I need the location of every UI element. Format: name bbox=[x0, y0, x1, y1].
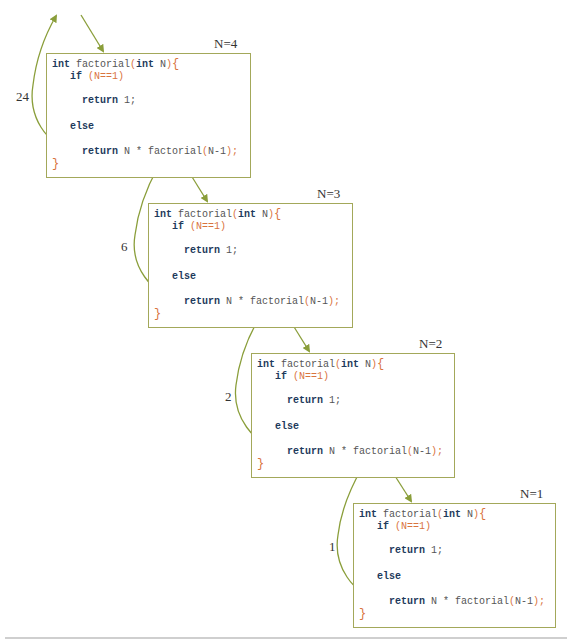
return-base: 1; bbox=[118, 95, 136, 106]
return-value-n4: 24 bbox=[16, 89, 29, 105]
param: N bbox=[359, 359, 371, 370]
return-value-n2: 2 bbox=[225, 389, 232, 405]
paren: ) bbox=[425, 521, 431, 532]
call-arg: N-1 bbox=[208, 146, 226, 157]
call-arg: N-1 bbox=[515, 596, 533, 607]
function-name: factorial bbox=[275, 359, 335, 370]
recursive-expr: N * factorial bbox=[323, 446, 407, 457]
recursive-expr: N * factorial bbox=[118, 146, 202, 157]
keyword: return bbox=[82, 146, 118, 157]
keyword: int bbox=[341, 359, 359, 370]
brace: { bbox=[274, 207, 281, 221]
paren: ) bbox=[323, 371, 329, 382]
code-block: int factorial(int N){ if (N==1) return 1… bbox=[149, 204, 173, 292]
return-base: 1; bbox=[220, 245, 238, 256]
bottom-divider bbox=[5, 637, 567, 639]
keyword: if bbox=[275, 371, 287, 382]
call-arg: N-1 bbox=[413, 446, 431, 457]
return-base: 1; bbox=[323, 395, 341, 406]
call-arg: N-1 bbox=[310, 296, 328, 307]
frame-label-n1: N=1 bbox=[520, 486, 543, 502]
paren: ) bbox=[220, 221, 226, 232]
keyword: return bbox=[184, 245, 220, 256]
function-name: factorial bbox=[70, 59, 130, 70]
keyword: return bbox=[389, 545, 425, 556]
brace: } bbox=[359, 607, 366, 621]
return-base: 1; bbox=[425, 545, 443, 556]
brace: { bbox=[377, 357, 384, 371]
frame-label-n4: N=4 bbox=[214, 36, 237, 52]
keyword: else bbox=[377, 571, 401, 582]
paren: ( bbox=[184, 221, 196, 232]
brace: { bbox=[479, 507, 486, 521]
return-value-n1: 1 bbox=[329, 539, 336, 555]
semicolon: ; bbox=[437, 446, 443, 457]
keyword: int bbox=[154, 209, 172, 220]
call-arrow-n4 bbox=[81, 15, 103, 51]
paren: ( bbox=[82, 71, 94, 82]
call-frame-n4: int factorial(int N){ if (N==1) return 1… bbox=[46, 53, 251, 178]
semicolon: ; bbox=[334, 296, 340, 307]
condition: N==1 bbox=[196, 221, 220, 232]
function-name: factorial bbox=[377, 509, 437, 520]
keyword: else bbox=[70, 121, 94, 132]
keyword: else bbox=[275, 421, 299, 432]
frame-label-n3: N=3 bbox=[317, 186, 340, 202]
brace: } bbox=[257, 457, 264, 471]
brace: } bbox=[154, 307, 161, 321]
brace: } bbox=[52, 157, 59, 171]
keyword: return bbox=[287, 395, 323, 406]
call-frame-n3: int factorial(int N){ if (N==1) return 1… bbox=[148, 203, 353, 328]
call-frame-n1: int factorial(int N){ if (N==1) return 1… bbox=[353, 503, 556, 628]
param: N bbox=[154, 59, 166, 70]
recursive-expr: N * factorial bbox=[425, 596, 509, 607]
keyword: return bbox=[287, 446, 323, 457]
return-value-n3: 6 bbox=[121, 239, 128, 255]
code-block: int factorial(int N){ if (N==1) return 1… bbox=[252, 354, 276, 442]
keyword: return bbox=[184, 296, 220, 307]
paren: ( bbox=[287, 371, 299, 382]
keyword: int bbox=[257, 359, 275, 370]
condition: N==1 bbox=[94, 71, 118, 82]
keyword: if bbox=[377, 521, 389, 532]
condition: N==1 bbox=[299, 371, 323, 382]
keyword: if bbox=[172, 221, 184, 232]
keyword: int bbox=[443, 509, 461, 520]
paren: ( bbox=[389, 521, 401, 532]
keyword: int bbox=[238, 209, 256, 220]
recursive-expr: N * factorial bbox=[220, 296, 304, 307]
code-block: int factorial(int N){ if (N==1) return 1… bbox=[47, 54, 71, 142]
keyword: int bbox=[359, 509, 377, 520]
brace: { bbox=[172, 57, 179, 71]
keyword: int bbox=[52, 59, 70, 70]
frame-label-n2: N=2 bbox=[419, 336, 442, 352]
param: N bbox=[256, 209, 268, 220]
keyword: return bbox=[389, 596, 425, 607]
semicolon: ; bbox=[232, 146, 238, 157]
function-name: factorial bbox=[172, 209, 232, 220]
code-block: int factorial(int N){ if (N==1) return 1… bbox=[354, 504, 378, 592]
call-frame-n2: int factorial(int N){ if (N==1) return 1… bbox=[251, 353, 455, 478]
condition: N==1 bbox=[401, 521, 425, 532]
keyword: int bbox=[136, 59, 154, 70]
semicolon: ; bbox=[539, 596, 545, 607]
paren: ) bbox=[118, 71, 124, 82]
param: N bbox=[461, 509, 473, 520]
keyword: if bbox=[70, 71, 82, 82]
keyword: else bbox=[172, 271, 196, 282]
keyword: return bbox=[82, 95, 118, 106]
